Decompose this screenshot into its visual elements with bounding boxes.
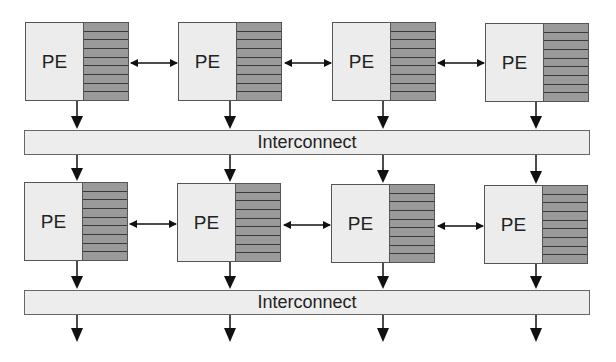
connection-arrows bbox=[0, 0, 616, 362]
